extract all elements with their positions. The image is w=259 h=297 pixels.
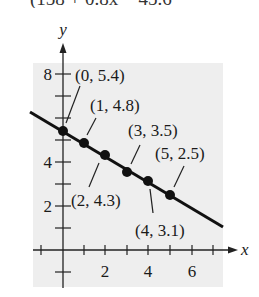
y-axis-label: y: [57, 20, 67, 39]
scatter-chart: 2 4 6 x 8 4 2 y (0, 5.4: [0, 0, 259, 297]
point-label: (1, 4.8): [90, 96, 140, 115]
y-tick-label: 2: [44, 197, 53, 216]
point-label: (2, 4.3): [71, 191, 121, 210]
data-point: [79, 138, 89, 148]
x-axis-arrow-icon: [228, 247, 238, 254]
x-tick-label: 2: [101, 262, 110, 281]
point-label: (3, 3.5): [128, 121, 178, 140]
x-axis-label: x: [240, 240, 249, 259]
data-point: [165, 190, 175, 200]
point-label: (4, 3.1): [135, 221, 185, 240]
data-point: [100, 150, 110, 160]
data-point: [143, 176, 153, 186]
y-tick-label: 8: [44, 65, 53, 84]
point-label: (0, 5.4): [75, 66, 125, 85]
data-point: [122, 167, 132, 177]
x-tick-label: 4: [144, 262, 153, 281]
y-axis-arrow-icon: [60, 43, 67, 53]
data-point: [58, 126, 68, 136]
point-label: (5, 2.5): [155, 144, 205, 163]
y-tick-label: 4: [44, 153, 53, 172]
x-tick-label: 6: [188, 262, 197, 281]
